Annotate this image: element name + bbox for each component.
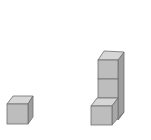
tower-side-face (118, 52, 124, 120)
cube-tower (91, 51, 124, 125)
cube-front-face (91, 106, 112, 125)
cube-front-face (98, 60, 118, 79)
cube-front-face (7, 104, 28, 124)
cube-figure (0, 0, 151, 140)
single-cube (7, 96, 33, 124)
cube-front-face (98, 79, 118, 98)
